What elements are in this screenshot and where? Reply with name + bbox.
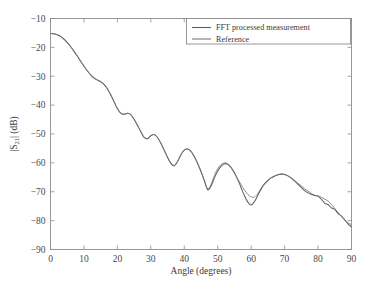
- x-tick-label: 50: [213, 254, 223, 264]
- y-tick-label: −10: [31, 14, 46, 24]
- y-tick-label: −70: [31, 187, 46, 197]
- y-tick-label: −60: [31, 158, 46, 168]
- x-tick-label: 60: [246, 254, 256, 264]
- y-tick-label: −20: [31, 43, 46, 53]
- legend-label-2: Reference: [216, 35, 250, 44]
- x-tick-label: 10: [79, 254, 89, 264]
- y-tick-label: −50: [31, 129, 46, 139]
- figure-container: 0102030405060708090 −10−20−30−40−50−60−7…: [0, 0, 372, 294]
- y-axis-title-group: |S21| (dB): [9, 116, 20, 151]
- x-tick-label: 30: [146, 254, 156, 264]
- legend-label-1: FFT processed measurement: [216, 23, 311, 32]
- legend[interactable]: FFT processed measurementReference: [187, 19, 351, 45]
- x-tick-label: 70: [280, 254, 290, 264]
- y-tick-label: −90: [31, 245, 46, 255]
- x-tick-label: 40: [180, 254, 190, 264]
- x-tick-label: 90: [347, 254, 357, 264]
- y-axis-title: |S21| (dB): [9, 116, 20, 151]
- y-tick-label: −30: [31, 72, 46, 82]
- x-tick-label: 0: [48, 254, 53, 264]
- y-tick-label: −40: [31, 100, 46, 110]
- x-tick-label: 20: [113, 254, 123, 264]
- y-axis-tick-labels: −10−20−30−40−50−60−70−80−90: [31, 14, 46, 255]
- x-axis-title: Angle (degrees): [171, 266, 232, 277]
- y-tick-label: −80: [31, 216, 46, 226]
- line-chart: 0102030405060708090 −10−20−30−40−50−60−7…: [0, 0, 372, 294]
- x-tick-label: 80: [313, 254, 323, 264]
